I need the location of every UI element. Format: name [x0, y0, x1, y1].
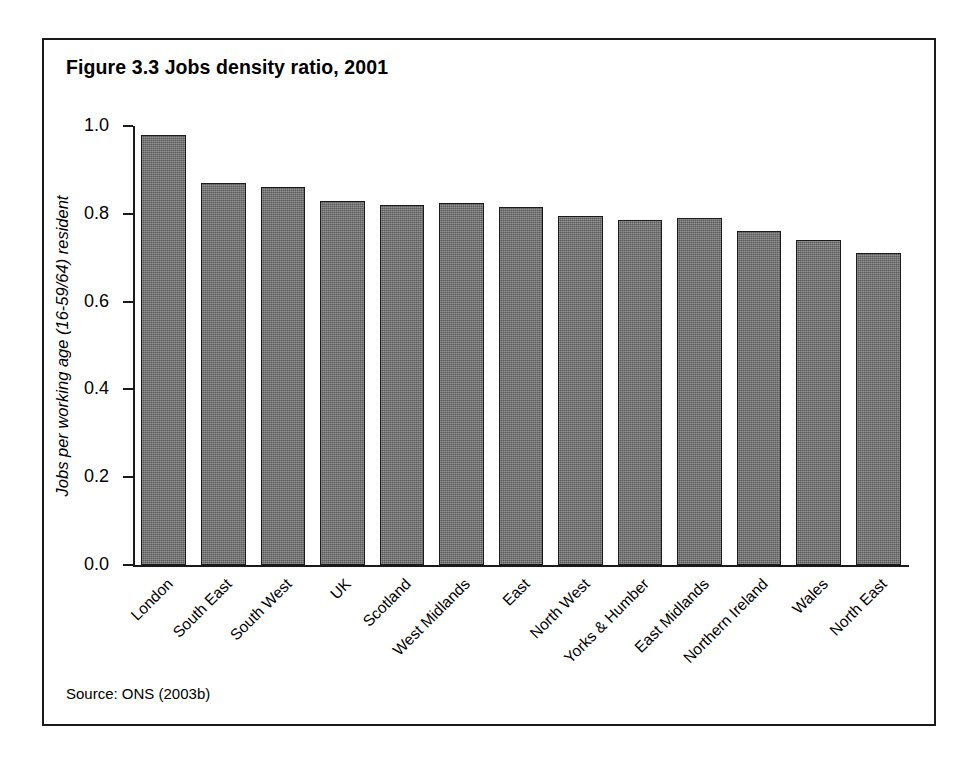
bar-slot	[194, 126, 254, 565]
bar	[796, 240, 841, 565]
figure-frame: Figure 3.3 Jobs density ratio, 2001 Jobs…	[42, 38, 936, 726]
x-axis-labels: LondonSouth EastSouth WestUKScotlandWest…	[134, 567, 908, 697]
x-axis-label: UK	[327, 575, 355, 603]
bar	[141, 135, 186, 565]
bar-slot	[313, 126, 373, 565]
x-axis-label: London	[127, 575, 176, 624]
bar	[201, 183, 246, 565]
x-axis-label-slot: South West	[253, 567, 313, 697]
x-axis-label: Wales	[789, 575, 832, 618]
x-axis-label-slot: West Midlands	[432, 567, 492, 697]
bar	[320, 201, 365, 565]
y-axis-tick-label: 0.8	[84, 202, 109, 223]
bar-slot	[729, 126, 789, 565]
bar-slot	[789, 126, 849, 565]
bar	[677, 218, 722, 565]
bar	[558, 216, 603, 565]
bar	[856, 253, 901, 565]
y-axis-tick: 0.2	[123, 476, 133, 478]
bar-slot	[670, 126, 730, 565]
figure-title: Figure 3.3 Jobs density ratio, 2001	[66, 56, 388, 79]
bar-slot	[432, 126, 492, 565]
bars-layer	[134, 126, 908, 565]
x-axis-label-slot: North East	[848, 567, 908, 697]
bar	[737, 231, 782, 565]
y-axis-title: Jobs per working age (16-59/64) resident	[53, 195, 72, 496]
bar-slot	[134, 126, 194, 565]
y-axis-tick-label: 0.4	[84, 378, 109, 399]
bar-slot	[372, 126, 432, 565]
bar	[261, 187, 306, 565]
y-axis-tick: 0.6	[123, 301, 133, 303]
bar-slot	[491, 126, 551, 565]
bar-slot	[551, 126, 611, 565]
y-axis-tick-label: 0.0	[84, 554, 109, 575]
plot-area: Jobs per working age (16-59/64) resident…	[134, 126, 908, 565]
source-note: Source: ONS (2003b)	[66, 685, 210, 702]
x-axis-label: East	[499, 575, 534, 610]
x-axis-label-slot: Northern Ireland	[729, 567, 789, 697]
bar-slot	[610, 126, 670, 565]
x-axis-label-slot: UK	[313, 567, 373, 697]
y-axis-tick: 1.0	[123, 125, 133, 127]
y-axis-tick: 0.0	[123, 564, 133, 566]
bar	[499, 207, 544, 565]
bar-slot	[253, 126, 313, 565]
y-axis-tick-label: 0.2	[84, 466, 109, 487]
bar-slot	[848, 126, 908, 565]
y-axis-tick: 0.8	[123, 213, 133, 215]
bar	[380, 205, 425, 565]
bar	[439, 203, 484, 565]
y-axis-tick: 0.4	[123, 388, 133, 390]
y-axis-tick-label: 0.6	[84, 290, 109, 311]
bar	[618, 220, 663, 565]
y-axis-tick-label: 1.0	[84, 115, 109, 136]
